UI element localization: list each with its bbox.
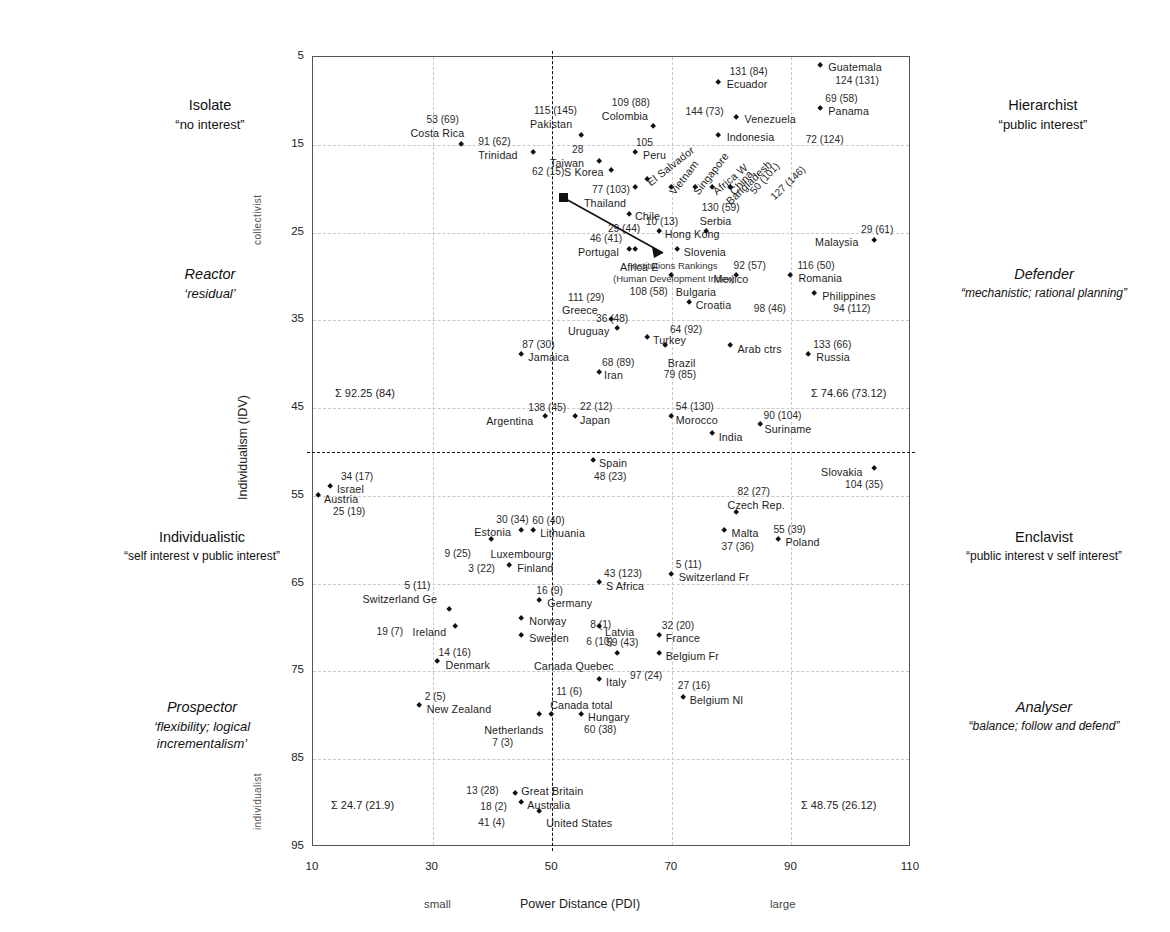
y-axis-tick: 25 (264, 225, 304, 237)
data-point-rank: 109 (88) (612, 97, 650, 108)
data-point-label: Netherlands (484, 724, 543, 736)
data-point-label: Great Britain (521, 785, 583, 797)
data-point-label: Philippines (822, 290, 875, 302)
data-point-rank: 5 (11) (405, 580, 431, 591)
data-point-label: Guatemala (828, 61, 882, 73)
data-point-label: Austria (324, 493, 358, 505)
x-axis-tick: 30 (412, 860, 452, 872)
data-point-rank: 22 (12) (580, 401, 612, 412)
data-point-label: Germany (547, 597, 592, 609)
quadrant-subtitle-reactor: ‘residual’ (110, 285, 310, 303)
quadrant-label-hierarchist: Hierarchist “public interest” (928, 96, 1158, 133)
data-point-label: New Zealand (427, 703, 492, 715)
data-point-label: Arab ctrs (738, 343, 782, 355)
data-point-rank: 37 (36) (722, 541, 754, 552)
data-point-rank: 18 (2) (480, 801, 507, 812)
data-point-rank: 5 (11) (676, 559, 702, 570)
quadrant-sum-top-right: Σ 74.66 (73.12) (811, 387, 886, 399)
data-point-rank: 79 (85) (664, 369, 696, 380)
data-point-label: Turkey (653, 334, 686, 346)
y-axis-title: Individualism (IDV) (236, 395, 250, 500)
data-point-rank: 90 (104) (764, 410, 802, 421)
quadrant-title-isolate: Isolate (110, 96, 310, 116)
data-point-rank: 29 (61) (861, 224, 893, 235)
data-point-rank: 91 (62) (478, 136, 510, 147)
data-point-rank: 105 (636, 137, 653, 148)
data-point-rank: 9 (25) (444, 548, 471, 559)
data-point-label: Lithuania (540, 527, 585, 539)
gridline-vertical (433, 57, 434, 845)
data-point-label: Belgium Fr (666, 650, 719, 662)
x-axis-high-label: large (770, 898, 796, 910)
y-axis-bottom-label: individualist (252, 773, 263, 830)
data-point-rank: 32 (20) (662, 620, 694, 631)
data-point-rank: 3 (22) (468, 563, 495, 574)
data-point-rank: 72 (124) (806, 134, 844, 145)
quadrant-title-analyser: Analyser (920, 698, 1168, 718)
y-axis-tick: 35 (264, 312, 304, 324)
data-point-rank: 60 (40) (532, 515, 564, 526)
data-point-label: Italy (606, 676, 626, 688)
data-point-rank: 64 (92) (670, 324, 702, 335)
data-point-label: Uruguay (568, 325, 609, 337)
annotation-line-2: (Human Development Index) (613, 273, 734, 286)
data-point-label: S Korea (564, 166, 604, 178)
data-point-rank: 55 (39) (773, 524, 805, 535)
data-point-rank: 69 (58) (825, 93, 857, 104)
data-point-label: Indonesia (727, 131, 775, 143)
data-point-label: Colombia (602, 110, 648, 122)
x-axis-low-label: small (424, 898, 451, 910)
data-point-rank: 87 (30) (522, 339, 554, 350)
data-point-rank: 115 (145) (534, 105, 577, 116)
data-point-rank: 60 (38) (584, 724, 616, 735)
data-point-label: France (666, 632, 700, 644)
data-point-label: Czech Rep. (728, 499, 785, 511)
data-point-rank: 14 (16) (439, 647, 471, 658)
data-point-rank: 138 (45) (528, 402, 566, 413)
quadrant-subtitle-hierarchist: “public interest” (928, 116, 1158, 134)
data-point-rank: 53 (69) (427, 114, 459, 125)
data-point-label: Romania (798, 272, 842, 284)
data-point-label: S Africa (606, 580, 644, 592)
data-point-label: Canada total (550, 699, 612, 711)
data-point-rank: 62 (15) (532, 166, 564, 177)
data-point-rank: 41 (4) (478, 817, 505, 828)
quadrant-title-enclavist: Enclavist (920, 528, 1168, 548)
data-point-label: Ecuador (727, 78, 768, 90)
data-point-label: Ireland (413, 626, 447, 638)
data-point-label: United States (546, 817, 612, 829)
data-point-label: Russia (816, 351, 850, 363)
data-point-rank: 92 (57) (734, 260, 766, 271)
data-point-label: Belgium Nl (690, 694, 743, 706)
data-point-rank: 97 (24) (630, 670, 662, 681)
data-point-rank: 16 (9) (536, 585, 563, 596)
data-point-rank: 94 (112) (833, 303, 870, 314)
quadrant-label-isolate: Isolate “no interest” (110, 96, 310, 133)
quadrant-subtitle-isolate: “no interest” (110, 116, 310, 134)
gridline-horizontal (313, 759, 909, 760)
quadrant-sum-bottom-right: Σ 48.75 (26.12) (801, 799, 876, 811)
data-point-label: Panama (828, 105, 869, 117)
quadrant-subtitle-prospector-2: incrementalism’ (92, 735, 312, 753)
quadrant-title-hierarchist: Hierarchist (928, 96, 1158, 116)
quadrant-label-prospector: Prospector ‘flexibility; logical increme… (92, 698, 312, 753)
data-point-rank: 98 (46) (754, 303, 786, 314)
data-point-label: Norway (529, 615, 566, 627)
data-point-label: Slovenia (684, 246, 726, 258)
data-point-label: Switzerland Ge (363, 593, 438, 605)
quadrant-subtitle-defender: “mechanistic; rational planning” (920, 285, 1168, 301)
quadrant-title-reactor: Reactor (110, 265, 310, 285)
data-point-rank: 82 (27) (738, 486, 770, 497)
y-axis-tick: 5 (264, 49, 304, 61)
data-point-rank: 7 (3) (492, 737, 513, 748)
quadrant-label-defender: Defender “mechanistic; rational planning… (920, 265, 1168, 301)
data-point-rank: 130 (59) (702, 202, 740, 213)
data-point-rank: 54 (130) (676, 401, 714, 412)
data-point-rank: 27 (16) (678, 680, 710, 691)
y-axis-tick: 55 (264, 488, 304, 500)
data-point-label: Iran (604, 369, 623, 381)
data-point-rank: 111 (29) (568, 292, 604, 303)
data-point-rank: 131 (84) (730, 66, 768, 77)
data-point-rank: 6 (10) (586, 636, 613, 647)
data-point-label: Jamaica (528, 351, 569, 363)
